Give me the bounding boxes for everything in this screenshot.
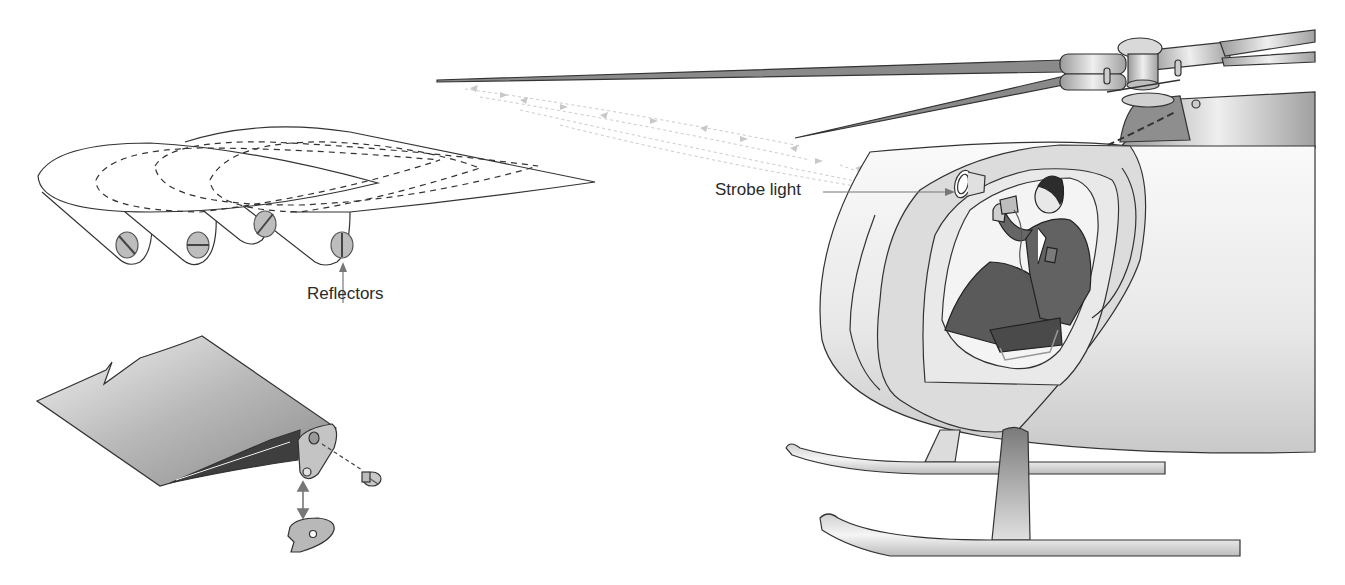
blade-tip-exploded	[37, 336, 381, 552]
reflector-1	[116, 232, 138, 258]
reflectors-label: Reflectors	[307, 284, 384, 304]
reflector-4	[331, 232, 353, 258]
illustration: Reflectors Strobe light	[0, 0, 1345, 585]
screw	[362, 472, 381, 486]
install-double-arrow	[298, 482, 308, 518]
reflector-2	[187, 232, 209, 258]
reflector-3	[254, 211, 276, 237]
strobe-light-label: Strobe light	[715, 180, 801, 200]
